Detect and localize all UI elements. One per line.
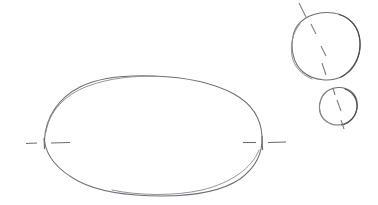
large-circle-axis-dash-4: [322, 63, 326, 75]
small-circle-axis-dash-1: [333, 88, 335, 95]
large-ellipse: [45, 76, 263, 196]
lower-right-small-circle: [319, 87, 357, 125]
large-circle-axis-dash-1: [299, 3, 306, 17]
small-circle-axis-dash-2: [337, 100, 341, 111]
large-circle-axis-line: [299, 3, 326, 75]
large-ellipse-outline: [45, 76, 263, 196]
small-circle-axis-line: [333, 88, 344, 129]
centerline-dash-left-inner: [51, 143, 70, 144]
centerline-dash-right-outer: [268, 142, 286, 143]
centerline-dash-left-outer: [26, 143, 37, 144]
centerline-tick-right: [262, 136, 263, 150]
large-circle-axis-dash-3: [321, 46, 326, 56]
centerline-tick-left: [44, 138, 45, 149]
large-circle-right-overdraw: [339, 15, 360, 78]
ellipse-right-centerline-marker: [243, 136, 286, 150]
large-ellipse-overdraw: [46, 76, 156, 132]
sketch-drawing: [0, 0, 378, 205]
large-circle-axis-dash-2: [311, 24, 316, 34]
large-ellipse-overdraw-lower: [112, 150, 259, 195]
small-circle-right-overdraw: [342, 89, 357, 125]
sketch-canvas: [0, 0, 378, 205]
upper-right-large-circle: [291, 12, 360, 80]
ellipse-left-centerline-marker: [26, 138, 70, 149]
